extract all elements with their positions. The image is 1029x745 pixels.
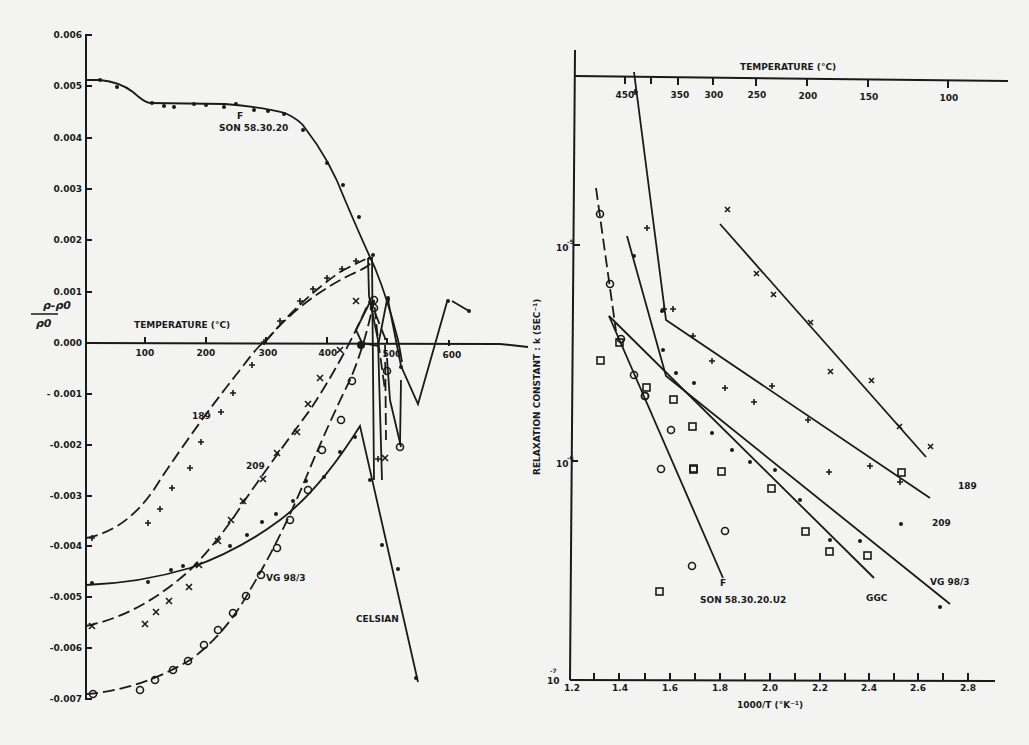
label-son-58-30-20-u2: SON 58.30.20.U2 bbox=[700, 595, 786, 605]
ytick-label: -0.005 bbox=[50, 592, 82, 602]
ytick-label: 0.002 bbox=[54, 235, 82, 245]
left-x-axis-ext bbox=[500, 344, 528, 347]
top-tick-label: 300 bbox=[705, 90, 724, 100]
ylabel-denominator: ρ0 bbox=[36, 317, 52, 330]
celsian-markers bbox=[90, 435, 418, 680]
x-markers-189 bbox=[725, 207, 933, 449]
label-189: 189 bbox=[958, 481, 977, 491]
ytick-exp: -7 bbox=[550, 667, 557, 674]
top-tick-label: 450 bbox=[616, 90, 635, 100]
xtick-label: 1.8 bbox=[712, 683, 728, 693]
series-vg-98-3-tail bbox=[387, 358, 401, 447]
label-f: F bbox=[237, 111, 243, 121]
ytick-label: - 0.001 bbox=[47, 389, 82, 399]
dot-markers-vg-98-3 bbox=[632, 254, 942, 609]
ytick-exp: -5 bbox=[567, 238, 574, 245]
ytick-label: 0.004 bbox=[54, 133, 82, 143]
xtick-label: 2.4 bbox=[861, 683, 877, 693]
label-celsian: CELSIAN bbox=[356, 614, 399, 624]
top-tick-label: 100 bbox=[940, 93, 959, 103]
ytick-label: -0.006 bbox=[50, 643, 82, 653]
ytick-label: 0.003 bbox=[54, 184, 82, 194]
xtick-label: 200 bbox=[197, 348, 216, 358]
left-y-axis-label: ρ-ρ0 ρ0 bbox=[31, 299, 71, 330]
xtick-label: 2.0 bbox=[762, 683, 778, 693]
fit-son-dashed bbox=[596, 188, 616, 331]
ytick-base: 10 bbox=[547, 676, 560, 686]
label-vg-98-3: VG 98/3 bbox=[266, 573, 306, 583]
top-tick-label: 150 bbox=[860, 92, 879, 102]
series-189-drop2 bbox=[368, 258, 382, 480]
chart-figure: 0.006 0.005 0.004 0.003 0.002 0.001 0.00… bbox=[0, 0, 1029, 745]
left-x-tick-labels: 100 200 300 400 500 600 bbox=[136, 348, 462, 360]
right-x-axis bbox=[570, 680, 995, 681]
left-x-axis-label: TEMPERATURE (°C) bbox=[134, 320, 230, 330]
right-x-axis-label: 1000/T (°K⁻¹) bbox=[737, 700, 803, 710]
series-189-upper bbox=[265, 258, 368, 342]
x-markers-209 bbox=[89, 298, 388, 629]
ylabel-numerator: ρ-ρ0 bbox=[43, 299, 71, 312]
label-vg-98-3: VG 98/3 bbox=[930, 577, 970, 587]
ytick-label: 0.006 bbox=[54, 30, 82, 40]
xtick-label: 2.6 bbox=[910, 683, 926, 693]
top-tick-label: 350 bbox=[671, 90, 690, 100]
right-top-axis bbox=[575, 76, 1008, 81]
top-tick-label: 250 bbox=[748, 90, 767, 100]
right-top-axis-label: TEMPERATURE (°C) bbox=[740, 62, 836, 72]
ytick-label: -0.002 bbox=[50, 440, 82, 450]
fit-ggc bbox=[609, 316, 874, 578]
left-chart: 0.006 0.005 0.004 0.003 0.002 0.001 0.00… bbox=[31, 30, 528, 704]
label-189: 189 bbox=[192, 411, 211, 421]
son-markers bbox=[98, 78, 390, 300]
xtick-label: 400 bbox=[319, 348, 338, 358]
label-209: 209 bbox=[246, 461, 265, 471]
plus-markers-209 bbox=[644, 225, 903, 485]
xtick-label: 100 bbox=[136, 348, 155, 358]
xtick-label: 1.2 bbox=[564, 683, 580, 693]
zigzag-marker bbox=[357, 341, 365, 349]
label-son-58-30-20: SON 58.30.20 bbox=[219, 123, 288, 133]
right-top-tick-labels: 450 350 300 250 200 150 100 bbox=[616, 90, 959, 103]
right-x-tick-labels: 1.2 1.4 1.6 1.8 2.0 2.2 2.4 2.6 2.8 bbox=[564, 683, 976, 693]
circle-markers-son bbox=[597, 211, 729, 570]
series-189 bbox=[86, 258, 371, 538]
ytick-label: -0.007 bbox=[50, 694, 82, 704]
label-209: 209 bbox=[932, 518, 951, 528]
fit-vg-98-3 bbox=[627, 236, 950, 604]
xtick-label: 1.6 bbox=[662, 683, 678, 693]
fit-son bbox=[609, 316, 723, 578]
xtick-label: 300 bbox=[259, 348, 278, 358]
ytick-exp: -6 bbox=[567, 454, 574, 461]
vg-tail-seg bbox=[400, 380, 401, 445]
right-chart: 450 350 300 250 200 150 100 TEMPERATURE … bbox=[532, 50, 1008, 710]
left-x-axis bbox=[86, 343, 500, 344]
ytick-label: 0.005 bbox=[54, 81, 82, 91]
xtick-label: 2.8 bbox=[960, 683, 976, 693]
label-f: F bbox=[720, 578, 726, 588]
ytick-label: 0.001 bbox=[54, 287, 82, 297]
xtick-label: 2.2 bbox=[812, 683, 828, 693]
plus-markers-189 bbox=[89, 258, 381, 541]
left-y-tick-labels: 0.006 0.005 0.004 0.003 0.002 0.001 0.00… bbox=[47, 30, 82, 704]
ytick-label: 0.000 bbox=[54, 338, 82, 348]
fit-209 bbox=[634, 72, 930, 498]
xtick-label: 600 bbox=[443, 350, 462, 360]
fit-189 bbox=[720, 224, 926, 457]
xtick-label: 1.4 bbox=[612, 683, 628, 693]
ytick-label: -0.004 bbox=[50, 541, 82, 551]
right-x-ticks bbox=[594, 673, 968, 680]
right-y-axis-label: RELAXATION CONSTANT : k (SEC⁻¹) bbox=[532, 299, 542, 475]
right-y-axis bbox=[570, 50, 575, 680]
top-tick-label: 200 bbox=[799, 91, 818, 101]
ytick-label: -0.003 bbox=[50, 491, 82, 501]
label-ggc: GGC bbox=[866, 593, 888, 603]
